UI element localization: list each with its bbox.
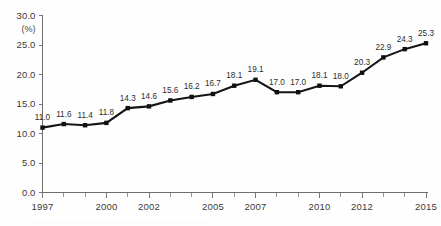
y-axis-tick-label: 20.0 (17, 69, 36, 80)
data-point-label: 15.6 (162, 86, 178, 95)
data-point-marker (381, 55, 385, 59)
data-point-label: 11.6 (56, 110, 72, 119)
data-point-marker (275, 90, 279, 94)
data-point-marker (402, 47, 406, 51)
data-point-marker (62, 122, 66, 126)
data-point-label: 25.3 (418, 29, 434, 38)
data-point-label: 18.1 (226, 71, 242, 80)
data-point-label: 11.8 (99, 108, 115, 117)
x-axis-tick-label: 2005 (202, 201, 224, 212)
x-axis-tick-label: 2010 (309, 201, 331, 212)
data-point-marker (104, 121, 108, 125)
data-point-labels: 11.011.611.411.814.314.615.616.216.718.1… (35, 29, 435, 122)
chart-canvas: 0.05.010.015.020.025.030.0(%) 1997200020… (0, 0, 441, 226)
x-axis-tick-label: 2012 (351, 201, 373, 212)
y-axis-tick-label: 10.0 (17, 128, 36, 139)
data-point-label: 17.0 (269, 78, 285, 87)
data-point-label: 16.2 (184, 82, 200, 91)
data-point-label: 18.0 (333, 72, 349, 81)
data-point-marker (168, 98, 172, 102)
line-chart-figure: 0.05.010.015.020.025.030.0(%) 1997200020… (0, 0, 441, 226)
data-point-marker (253, 78, 257, 82)
data-point-label: 18.1 (312, 71, 328, 80)
data-point-marker (339, 84, 343, 88)
y-axis-unit-label: (%) (22, 24, 36, 34)
x-axis-tick-label: 2007 (245, 201, 267, 212)
data-point-label: 16.7 (205, 79, 221, 88)
data-point-marker (296, 90, 300, 94)
data-point-marker (424, 41, 428, 45)
y-axis: 0.05.010.015.020.025.030.0(%) (17, 10, 43, 198)
data-point-label: 17.0 (290, 78, 306, 87)
data-point-label: 24.3 (397, 35, 413, 44)
data-point-marker (211, 92, 215, 96)
data-point-marker (317, 84, 321, 88)
x-axis-tick-label: 2002 (138, 201, 160, 212)
data-point-label: 11.4 (77, 111, 93, 120)
data-point-label: 14.6 (141, 92, 157, 101)
data-point-label: 11.0 (35, 113, 51, 122)
x-axis-tick-label: 2000 (95, 201, 117, 212)
data-point-marker (40, 125, 44, 129)
x-axis-tick-label: 1997 (32, 201, 54, 212)
data-point-marker (232, 84, 236, 88)
data-point-marker (126, 106, 130, 110)
data-point-label: 14.3 (120, 94, 136, 103)
scan-artifact (26, 221, 211, 224)
y-axis-tick-label: 30.0 (17, 10, 36, 21)
data-point-label: 20.3 (354, 58, 370, 67)
x-axis: 19972000200220052007201020122015 (32, 193, 437, 212)
data-point-marker (83, 123, 87, 127)
y-axis-tick-label: 0.0 (22, 187, 36, 198)
data-point-marker (147, 104, 151, 108)
data-point-label: 19.1 (248, 65, 264, 74)
y-axis-tick-label: 5.0 (22, 157, 36, 168)
x-axis-tick-label: 2015 (415, 201, 437, 212)
y-axis-tick-label: 15.0 (17, 98, 36, 109)
y-axis-tick-label: 25.0 (17, 39, 36, 50)
data-point-label: 22.9 (375, 43, 391, 52)
data-point-marker (360, 71, 364, 75)
data-point-marker (189, 95, 193, 99)
